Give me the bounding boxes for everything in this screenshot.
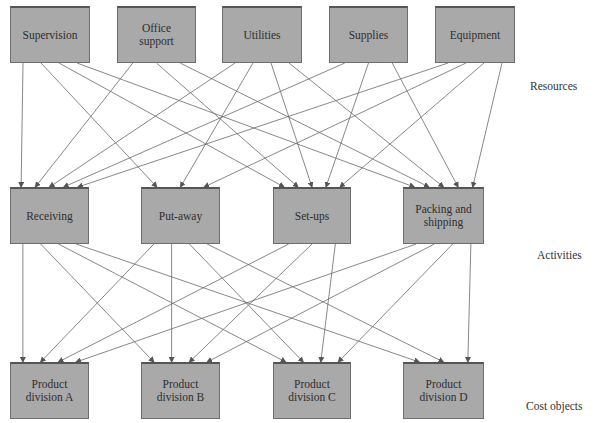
node-label: Set-ups <box>283 210 341 223</box>
node-label: Product division C <box>283 378 341 404</box>
arrow-supplies-to-receiving <box>64 63 345 187</box>
resource-box-utilities: Utilities <box>222 6 302 63</box>
arrow-supervision-to-put-away <box>41 63 157 187</box>
activity-box-put-away: Put-away <box>141 187 220 244</box>
arrow-packing-shipping-to-division-d <box>468 244 471 362</box>
resource-box-supplies: Supplies <box>329 6 408 63</box>
node-label: Put-away <box>151 210 210 223</box>
level-label-cost-objects: Cost objects <box>526 400 583 412</box>
resource-box-office-support: Office support <box>117 6 196 63</box>
arrow-packing-shipping-to-division-c <box>338 244 452 362</box>
node-label: Packing and shipping <box>413 203 474 229</box>
node-label: Receiving <box>20 210 79 223</box>
cost-object-box-division-d: Product division D <box>403 362 484 419</box>
level-label-activities: Activities <box>537 249 582 261</box>
resource-box-equipment: Equipment <box>435 6 515 63</box>
arrow-supervision-to-packing-shipping <box>77 63 414 187</box>
cost-object-box-division-a: Product division A <box>10 362 89 419</box>
arrow-utilities-to-packing-shipping <box>289 63 444 187</box>
arrow-put-away-to-division-d <box>207 244 443 362</box>
node-label: Supervision <box>20 29 80 42</box>
arrow-supplies-to-packing-shipping <box>392 63 458 187</box>
arrow-utilities-to-receiving <box>50 63 236 187</box>
arrow-supervision-to-set-ups <box>59 63 284 187</box>
activity-box-receiving: Receiving <box>10 187 89 244</box>
node-label: Product division B <box>151 378 210 404</box>
cost-object-box-division-c: Product division C <box>273 362 351 419</box>
level-label-resources: Resources <box>530 80 577 92</box>
node-label: Equipment <box>445 29 505 42</box>
arrow-supervision-to-receiving <box>21 63 23 187</box>
arrow-equipment-to-packing-shipping <box>473 63 502 187</box>
resource-box-supervision: Supervision <box>10 6 90 63</box>
node-label: Supplies <box>339 29 398 42</box>
arrow-set-ups-to-division-b <box>189 244 312 362</box>
node-label: Product division A <box>20 378 79 404</box>
node-label: Utilities <box>232 29 292 42</box>
arrow-packing-shipping-to-division-b <box>207 244 434 362</box>
arrow-equipment-to-set-ups <box>340 63 484 187</box>
arrow-office-support-to-receiving <box>35 63 133 187</box>
arrow-set-ups-to-division-c <box>321 244 336 362</box>
arrow-equipment-to-put-away <box>204 63 466 187</box>
cost-object-box-division-b: Product division B <box>141 362 220 419</box>
node-label: Office support <box>127 22 186 48</box>
activity-box-set-ups: Set-ups <box>273 187 351 244</box>
node-label: Product division D <box>413 378 474 404</box>
activity-box-packing-shipping: Packing and shipping <box>403 187 484 244</box>
